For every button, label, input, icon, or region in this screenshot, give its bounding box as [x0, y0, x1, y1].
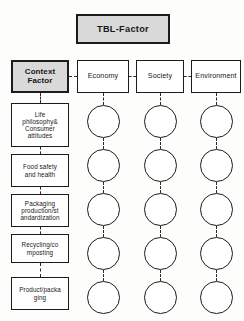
matrix-cell-marker: [200, 237, 233, 270]
life-philosophy-consumer-attitudes-label: Life philosophy& Consumer attitudes: [20, 111, 59, 139]
tbl-factor-diagram: TBL-Factor Context Factor Economy Societ…: [0, 0, 244, 321]
connector-row1-to-row2: [40, 147, 41, 154]
connector-environment-cell1-cell2: [216, 138, 217, 149]
matrix-cell-marker: [144, 149, 177, 182]
connector-society-cell4-cell5: [160, 270, 161, 281]
connector-economy-cell2-cell3: [103, 182, 104, 193]
packaging-production-standardization-box: Packaging production/st andardization: [11, 194, 69, 227]
matrix-cell-marker: [200, 281, 233, 314]
matrix-cell-marker: [144, 237, 177, 270]
food-safety-and-health-box: Food safety and health: [11, 154, 69, 187]
connector-society-to-cell1: [160, 93, 161, 105]
connector-economy-cell3-cell4: [103, 226, 104, 237]
economy-box: Economy: [77, 60, 129, 93]
context-factor-box: Context Factor: [11, 60, 69, 93]
context-factor-label: Context Factor: [23, 68, 57, 86]
connector-environment-cell3-cell4: [216, 226, 217, 237]
environment-label: Environment: [193, 72, 238, 80]
matrix-cell-marker: [144, 281, 177, 314]
matrix-cell-marker: [87, 281, 120, 314]
environment-box: Environment: [191, 60, 241, 93]
matrix-cell-marker: [144, 193, 177, 226]
recycling-composting-box: Recycling/co mposting: [11, 234, 69, 263]
connector-row4-to-row5: [40, 263, 41, 277]
connector-context-to-row1: [40, 93, 41, 103]
connector-society-cell3-cell4: [160, 226, 161, 237]
connector-environment-to-cell1: [216, 93, 217, 105]
matrix-cell-marker: [200, 105, 233, 138]
matrix-cell-marker: [87, 237, 120, 270]
economy-label: Economy: [86, 72, 121, 80]
recycling-composting-label: Recycling/co mposting: [20, 241, 61, 255]
product-packaging-label: Product/packa ging: [17, 286, 63, 300]
society-box: Society: [136, 60, 184, 93]
tbl-factor-title-label: TBL-Factor: [95, 24, 151, 34]
connector-context-economy: [69, 76, 77, 77]
matrix-cell-marker: [87, 193, 120, 226]
connector-society-cell2-cell3: [160, 182, 161, 193]
society-label: Society: [146, 72, 174, 80]
matrix-cell-marker: [144, 105, 177, 138]
product-packaging-box: Product/packa ging: [11, 277, 69, 310]
connector-environment-cell4-cell5: [216, 270, 217, 281]
connector-row3-to-row4: [40, 227, 41, 234]
life-philosophy-consumer-attitudes-box: Life philosophy& Consumer attitudes: [11, 103, 69, 147]
connector-row2-to-row3: [40, 187, 41, 194]
connector-society-environment: [184, 76, 191, 77]
matrix-cell-marker: [200, 149, 233, 182]
connector-economy-cell4-cell5: [103, 270, 104, 281]
matrix-cell-marker: [87, 105, 120, 138]
connector-society-cell1-cell2: [160, 138, 161, 149]
food-safety-and-health-label: Food safety and health: [21, 163, 59, 177]
connector-environment-cell2-cell3: [216, 182, 217, 193]
matrix-cell-marker: [87, 149, 120, 182]
tbl-factor-title-box: TBL-Factor: [76, 14, 170, 44]
connector-economy-to-cell1: [103, 93, 104, 105]
packaging-production-standardization-label: Packaging production/st andardization: [18, 200, 61, 221]
connector-economy-society: [129, 76, 136, 77]
matrix-cell-marker: [200, 193, 233, 226]
connector-economy-cell1-cell2: [103, 138, 104, 149]
